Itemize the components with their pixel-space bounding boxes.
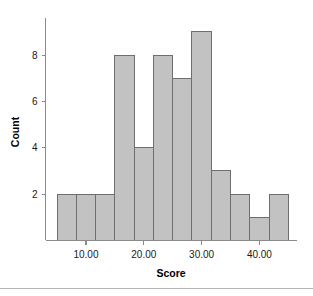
histogram-bar: [192, 32, 211, 241]
x-tick-label: 10.00: [73, 249, 98, 260]
histogram-bar: [250, 217, 269, 240]
bars-group: [57, 32, 288, 241]
x-axis-title: Score: [156, 267, 185, 279]
x-tick-label: 30.00: [189, 249, 214, 260]
histogram-bar: [231, 194, 250, 240]
histogram-bar: [134, 148, 153, 241]
x-ticks-group: 10.0020.0030.0040.00: [73, 241, 272, 260]
y-tick-label: 6: [32, 96, 38, 107]
histogram-bar: [211, 171, 230, 241]
histogram-plot: 2468 10.0020.0030.0040.00 Score Count: [0, 0, 313, 296]
y-tick-label: 8: [32, 50, 38, 61]
histogram-bar: [57, 194, 76, 240]
histogram-bar: [76, 194, 95, 240]
y-axis-title: Count: [9, 116, 21, 147]
y-ticks-group: 2468: [32, 50, 46, 200]
histogram-bar: [153, 55, 172, 240]
x-tick-label: 20.00: [131, 249, 156, 260]
y-tick-label: 2: [32, 189, 38, 200]
histogram-bar: [115, 55, 134, 240]
histogram-bar: [173, 78, 192, 240]
x-tick-label: 40.00: [247, 249, 272, 260]
y-tick-label: 4: [32, 142, 38, 153]
histogram-figure: 2468 10.0020.0030.0040.00 Score Count: [0, 0, 313, 296]
histogram-bar: [96, 194, 115, 240]
histogram-bar: [269, 194, 288, 240]
